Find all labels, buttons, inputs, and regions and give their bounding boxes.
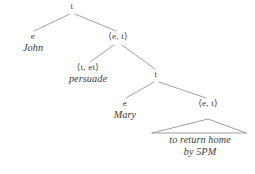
semantic-type-tree-figure: t e John ⟨e, t⟩ ⟨t, et⟩ persuade t e Mar… (0, 0, 255, 174)
type-label-persuade: ⟨t, et⟩ (69, 63, 107, 73)
edge-root-to-john (34, 14, 70, 31)
edge-root-to-et-upper (75, 14, 116, 31)
node-mary: e Mary (114, 99, 136, 120)
type-label-et-lower: ⟨e, t⟩ (198, 99, 218, 109)
node-john: e John (23, 32, 43, 53)
type-label-et-upper: ⟨e, t⟩ (108, 32, 128, 42)
type-label-root: t (71, 2, 74, 12)
node-phrase-to-return-home-by-5pm: to return home by 5PM (169, 134, 231, 159)
edge-t-inner-to-et-lower (159, 82, 206, 98)
edge-t-inner-to-mary (126, 82, 154, 98)
node-et-lower: ⟨e, t⟩ (198, 99, 218, 109)
phrase-label-line-2: by 5PM (169, 146, 231, 158)
node-persuade: ⟨t, et⟩ persuade (69, 63, 107, 84)
node-t-inner: t (155, 70, 158, 80)
type-label-t-inner: t (155, 70, 158, 80)
phrase-label-line-1: to return home (169, 134, 231, 146)
type-label-john: e (23, 32, 43, 42)
type-label-mary: e (114, 99, 136, 109)
edge-et-upper-to-t-inner (122, 45, 155, 69)
word-label-mary: Mary (114, 109, 136, 120)
edge-et-upper-to-persuade (90, 45, 114, 62)
word-label-persuade: persuade (69, 73, 107, 84)
node-et-upper: ⟨e, t⟩ (108, 32, 128, 42)
triangle-phrase-adjunction (152, 119, 246, 133)
node-root-t: t (71, 2, 74, 12)
word-label-john: John (23, 42, 43, 53)
